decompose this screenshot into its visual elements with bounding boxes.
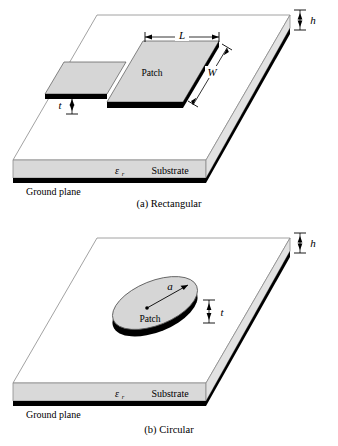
permittivity-symbol: ε (115, 388, 119, 399)
permittivity-symbol: ε (115, 165, 119, 176)
patch-front-face (107, 102, 183, 108)
figure-caption-rectangular: (a) Rectangular (0, 198, 338, 209)
substrate-label: Substrate (151, 165, 189, 176)
dimension-substrate-height: h (294, 10, 316, 30)
figure-caption-circular: (b) Circular (0, 424, 338, 435)
ground-plane-front (13, 401, 206, 406)
dimension-length-label: L (178, 29, 185, 41)
dimension-substrate-height-label: h (310, 237, 316, 249)
ground-plane-label: Ground plane (26, 409, 81, 420)
substrate-label: Substrate (151, 388, 189, 399)
patch-label: Patch (141, 68, 162, 78)
dimension-radius-label: a (167, 280, 173, 292)
dimension-width-label: W (207, 66, 217, 78)
dimension-substrate-height: h (294, 233, 316, 253)
patch-label: Patch (139, 314, 160, 324)
figure-rectangular-patch: Patch L W t (0, 0, 338, 223)
figure-circular-patch: a Patch t h ε r Substrate Ground plane (0, 223, 338, 446)
ground-plane-front (13, 178, 206, 183)
feed-line-side-face (45, 94, 107, 99)
dimension-substrate-height-label: h (310, 14, 316, 26)
ground-plane-label: Ground plane (26, 186, 81, 197)
